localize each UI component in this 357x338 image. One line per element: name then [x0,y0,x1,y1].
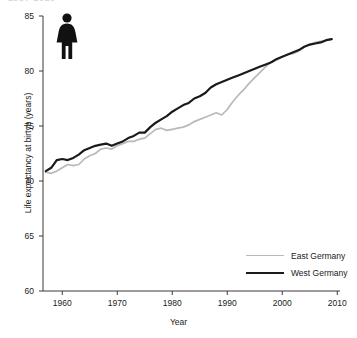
x-tick-label: 1960 [42,299,82,308]
y-tick-label: 85 [12,12,34,21]
y-tick-label: 75 [12,122,34,131]
x-tick-label: 1980 [152,299,192,308]
chart-legend: East Germany West Germany [246,247,348,281]
legend-swatch-west-germany [246,272,284,274]
legend-label-east-germany: East Germany [291,251,345,261]
life-expectancy-chart: 1957-2010 Life expectancy at birtyh (yea… [0,0,357,338]
y-tick-label: 70 [12,177,34,186]
x-axis-label: Year [0,317,357,327]
x-tick-label: 1990 [207,299,247,308]
legend-swatch-east-germany [246,255,284,256]
legend-item-east-germany: East Germany [246,247,348,264]
y-tick-label: 60 [12,287,34,296]
y-axis-label: Life expectancy at birtyh (years) [23,63,33,243]
series-line-west-germany [46,39,332,171]
y-tick-label: 80 [12,67,34,76]
y-tick-label: 65 [12,232,34,241]
legend-item-west-germany: West Germany [246,264,348,281]
female-figure-icon [52,12,82,60]
x-tick-label: 2010 [317,299,357,308]
clipped-title-fragment: 1957-2010 [8,0,56,3]
series-line-east-germany [46,39,332,173]
x-tick-label: 1970 [97,299,137,308]
x-tick-label: 2000 [262,299,302,308]
legend-label-west-germany: West Germany [291,268,348,278]
